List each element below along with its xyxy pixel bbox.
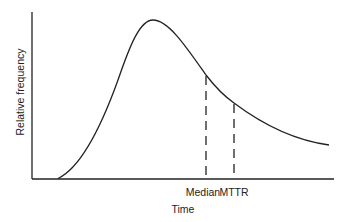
repair-time-chart: Median MTTR Time Relative frequency: [0, 0, 350, 222]
median-label: Median: [186, 186, 221, 198]
distribution-curve: [58, 20, 329, 179]
x-axis-label: Time: [172, 203, 195, 215]
mttr-label: MTTR: [219, 186, 249, 198]
y-axis-label: Relative frequency: [14, 48, 26, 136]
